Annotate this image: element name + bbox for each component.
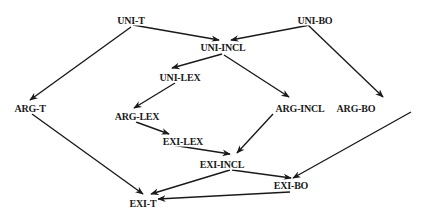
node-arg-incl: ARG-INCL — [275, 103, 326, 114]
node-uni-incl: UNI-INCL — [199, 42, 246, 53]
edge-exi-bo-to-exi-t — [158, 192, 290, 199]
edge-arg-lex-to-exi-lex — [136, 122, 169, 134]
node-arg-t: ARG-T — [13, 103, 46, 114]
edge-uni-incl-to-uni-lex — [172, 54, 222, 68]
edge-uni-t-to-arg-t — [30, 27, 131, 100]
edge-uni-incl-to-arg-incl — [224, 55, 289, 97]
node-exi-incl: EXI-INCL — [199, 159, 246, 170]
node-arg-bo: ARG-BO — [336, 103, 377, 114]
edge-uni-bo-to-arg-bo — [308, 25, 383, 97]
lattice-diagram: UNI-T UNI-BO UNI-INCL UNI-LEX ARG-T ARG-… — [0, 0, 444, 220]
edges-layer — [0, 0, 444, 220]
edge-uni-t-to-uni-incl — [133, 25, 219, 40]
edge-uni-lex-to-arg-lex — [134, 83, 175, 108]
edge-arg-t-to-exi-t — [32, 114, 143, 194]
edge-arg-bo-to-exi-bo — [293, 112, 411, 178]
edge-uni-bo-to-uni-incl — [231, 25, 310, 40]
node-uni-lex: UNI-LEX — [159, 72, 202, 83]
node-uni-t: UNI-T — [116, 15, 145, 26]
node-arg-lex: ARG-LEX — [114, 111, 161, 122]
node-uni-bo: UNI-BO — [297, 15, 334, 26]
edge-exi-incl-to-exi-bo — [232, 170, 291, 178]
node-exi-t: EXI-T — [129, 198, 158, 209]
edge-arg-incl-to-exi-incl — [237, 114, 273, 153]
edge-exi-incl-to-exi-t — [151, 170, 230, 194]
node-exi-bo: EXI-BO — [273, 180, 309, 191]
node-exi-lex: EXI-LEX — [162, 136, 204, 147]
